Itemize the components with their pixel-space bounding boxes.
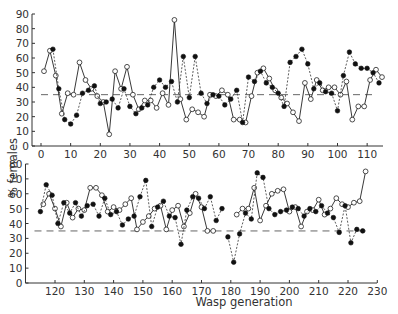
x-tick-label: 0 (38, 148, 45, 160)
x-tick-label: 160 (162, 285, 182, 297)
open-circle-marker (129, 196, 134, 201)
open-circle-marker (252, 185, 257, 190)
open-circle-marker (65, 91, 70, 96)
filled-circle-marker (132, 214, 137, 219)
x-tick-label: 230 (367, 285, 387, 297)
open-circle-marker (316, 197, 321, 202)
filled-circle-marker (161, 199, 166, 204)
filled-circle-marker (214, 218, 219, 223)
filled-circle-marker (193, 54, 198, 59)
axis-lines (25, 164, 377, 283)
y-tick-label: 0 (16, 277, 23, 289)
open-circle-marker (125, 64, 130, 69)
filled-circles-dashed-line-line (228, 173, 363, 262)
open-circle-marker (154, 106, 159, 111)
x-tick-label: 140 (104, 285, 124, 297)
filled-circle-marker (173, 215, 178, 220)
open-circle-marker (123, 202, 128, 207)
filled-circle-marker (288, 60, 293, 65)
filled-circle-marker (114, 209, 119, 214)
filled-circle-marker (211, 92, 216, 97)
filled-circle-marker (175, 100, 180, 105)
x-tick-label: 80 (272, 148, 285, 160)
open-circle-marker (88, 185, 93, 190)
open-circle-marker (205, 229, 210, 234)
y-tick-label: 20 (16, 111, 29, 123)
filled-circle-marker (308, 206, 313, 211)
filled-circle-marker (323, 89, 328, 94)
bottom-panel: 0102030405060708012013014015016017018019… (9, 158, 387, 297)
filled-circle-marker (237, 232, 242, 237)
filled-circle-marker (74, 113, 79, 118)
open-circle-marker (70, 215, 75, 220)
x-tick-label: 210 (309, 285, 329, 297)
filled-circle-marker (56, 221, 61, 226)
filled-circle-marker (261, 175, 266, 180)
filled-circle-marker (149, 224, 154, 229)
filled-circle-marker (91, 202, 96, 207)
filled-circle-marker (128, 104, 133, 109)
filled-circle-marker (319, 203, 324, 208)
filled-circle-marker (167, 214, 172, 219)
y-tick-label: 50 (16, 67, 29, 79)
open-circle-marker (357, 199, 362, 204)
filled-circle-marker (300, 47, 305, 52)
open-circle-marker (368, 78, 373, 83)
filled-circle-marker (157, 78, 162, 83)
open-circle-marker (334, 196, 339, 201)
filled-circle-marker (196, 196, 201, 201)
open-circle-marker (196, 110, 201, 115)
filled-circle-marker (205, 101, 210, 106)
x-tick-label: 100 (327, 148, 347, 160)
filled-circle-marker (116, 106, 121, 111)
filled-circle-marker (155, 205, 160, 210)
filled-circle-marker (151, 85, 156, 90)
x-tick-label: 50 (183, 148, 196, 160)
filled-circle-marker (220, 206, 225, 211)
filled-circle-marker (302, 214, 307, 219)
filled-circle-marker (353, 62, 358, 67)
filled-circle-marker (355, 227, 360, 232)
filled-circle-marker (103, 196, 108, 201)
open-circle-marker (83, 78, 88, 83)
filled-circle-marker (234, 88, 239, 93)
x-tick-label: 60 (212, 148, 225, 160)
filled-circle-marker (169, 79, 174, 84)
filled-circle-marker (85, 203, 90, 208)
filled-circle-marker (273, 212, 278, 217)
filled-circle-marker (331, 215, 336, 220)
y-tick-label: 30 (16, 96, 29, 108)
open-circle-marker (131, 92, 136, 97)
x-tick-label: 220 (338, 285, 358, 297)
filled-circle-marker (44, 183, 49, 188)
filled-circle-marker (270, 85, 275, 90)
filled-circle-marker (97, 214, 102, 219)
open-circle-marker (220, 88, 225, 93)
filled-circle-marker (110, 97, 115, 102)
filled-circle-marker (68, 122, 73, 127)
open-circle-marker (362, 104, 367, 109)
open-circle-marker (363, 169, 368, 174)
open-circle-marker (308, 97, 313, 102)
open-circle-marker (53, 73, 58, 78)
filled-circle-marker (365, 66, 370, 71)
filled-circle-marker (290, 205, 295, 210)
open-circle-marker (142, 98, 147, 103)
filled-circle-marker (258, 69, 263, 74)
filled-circle-marker (199, 91, 204, 96)
open-circle-marker (77, 60, 82, 65)
filled-circle-marker (312, 87, 317, 92)
filled-circle-marker (314, 209, 319, 214)
open-circle-marker (356, 104, 361, 109)
x-tick-label: 40 (153, 148, 166, 160)
top-panel: 0102030405060708090010203040506070809010… (16, 8, 385, 160)
open-circle-marker (332, 85, 337, 90)
open-circle-marker (267, 76, 272, 81)
open-circles-solid-line-line (44, 20, 382, 134)
open-circle-marker (344, 79, 349, 84)
filled-circle-marker (217, 94, 222, 99)
x-tick-label: 130 (74, 285, 94, 297)
open-circle-marker (211, 229, 216, 234)
open-circle-marker (291, 110, 296, 115)
filled-circle-marker (190, 194, 195, 199)
